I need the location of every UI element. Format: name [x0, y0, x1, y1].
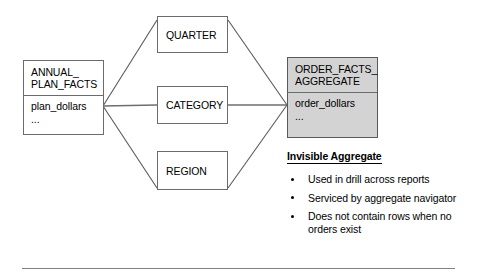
annotation-block: Invisible Aggregate Used in drill across… — [287, 146, 475, 241]
list-item: Serviced by aggregate navigator — [287, 192, 475, 205]
connector-quarter-to-aggregate — [228, 20, 287, 105]
bottom-divider — [22, 268, 455, 269]
list-item-text: Does not contain rows when no orders exi… — [308, 210, 452, 235]
entity-order-facts-aggregate-body: order_dollars ... — [288, 93, 377, 123]
entity-annual-plan-facts[interactable]: ANNUAL_ PLAN_FACTS plan_dollars ... — [23, 60, 104, 135]
connector-plan-to-region — [103, 106, 157, 188]
connector-plan-to-quarter — [103, 20, 157, 106]
list-item: Used in drill across reports — [287, 173, 475, 186]
list-item-text: Serviced by aggregate navigator — [308, 192, 456, 204]
connector-plan-to-category — [103, 105, 157, 106]
bullet-dot-icon — [291, 215, 294, 218]
entity-quarter[interactable]: QUARTER — [157, 16, 228, 53]
entity-category[interactable]: CATEGORY — [157, 86, 228, 124]
annotation-heading: Invisible Aggregate — [287, 150, 382, 164]
diagram-canvas: ANNUAL_ PLAN_FACTS plan_dollars ... QUAR… — [0, 0, 478, 277]
bullet-dot-icon — [291, 178, 294, 181]
entity-quarter-label: QUARTER — [158, 29, 216, 41]
entity-annual-plan-facts-body: plan_dollars ... — [24, 96, 103, 126]
bullet-dot-icon — [291, 196, 294, 199]
entity-order-facts-aggregate[interactable]: ORDER_FACTS_ AGGREGATE order_dollars ... — [287, 57, 378, 138]
list-item: Does not contain rows when no orders exi… — [287, 210, 475, 235]
entity-annual-plan-facts-title: ANNUAL_ PLAN_FACTS — [24, 61, 103, 95]
entity-order-facts-aggregate-title: ORDER_FACTS_ AGGREGATE — [288, 58, 377, 92]
entity-region[interactable]: REGION — [157, 151, 228, 190]
entity-region-label: REGION — [158, 165, 207, 177]
connector-region-to-aggregate — [228, 105, 287, 188]
entity-category-label: CATEGORY — [158, 99, 223, 111]
annotation-bullet-list: Used in drill across reports Serviced by… — [287, 173, 475, 235]
list-item-text: Used in drill across reports — [308, 173, 430, 185]
